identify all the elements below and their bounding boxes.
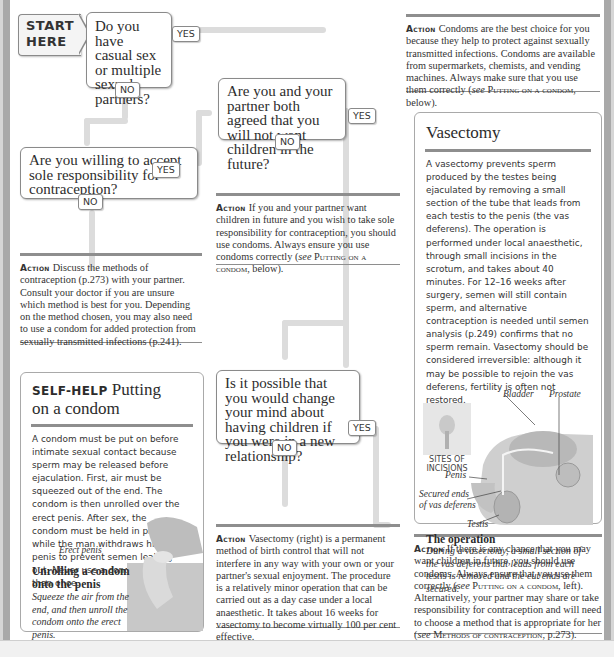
q3-no-tag: NO <box>275 134 300 150</box>
label-prostate: Prostate <box>549 389 581 399</box>
page-footer-strip <box>0 640 614 657</box>
action-use-condoms: ActionCondoms are the best choice for yo… <box>406 14 600 92</box>
label-penis: Penis <box>445 470 466 480</box>
condom-illustration <box>127 513 203 631</box>
start-label: START HERE <box>26 18 74 50</box>
label-bladder: Bladder <box>503 389 534 399</box>
label-erect-penis: Erect penis <box>59 545 102 555</box>
page-edge-left <box>0 0 10 640</box>
page-edge-right <box>604 0 614 640</box>
q2-yes-tag: YES <box>152 162 180 178</box>
q1-yes-tag: YES <box>172 26 200 42</box>
q4-no-tag: NO <box>272 440 297 456</box>
label-secured-ends: Secured ends of vas deferens <box>419 489 477 511</box>
action-sole-condoms: ActionIf you and your partner want child… <box>216 193 400 265</box>
vasectomy-panel: Vasectomy A vasectomy prevents sperm pro… <box>414 112 602 524</box>
q1-no-tag: NO <box>115 82 140 98</box>
q3-yes-tag: YES <box>348 108 376 124</box>
selfhelp-title: SELF-HELP Putting on a condom <box>31 373 193 427</box>
label-testis: Testis <box>467 519 488 529</box>
vasectomy-caption: The operation During a vasectomy, a smal… <box>426 533 594 595</box>
q4-yes-tag: YES <box>348 420 376 436</box>
question-partner-agreed: Are you and your partner both agreed tha… <box>218 78 346 140</box>
action-discuss-methods: ActionDiscuss the methods of contracepti… <box>20 253 202 343</box>
selfhelp-panel: SELF-HELP Putting on a condom A condom m… <box>20 372 204 632</box>
q2-no-tag: NO <box>78 194 103 210</box>
action-vasectomy: ActionVasectomy (right) is a permanent m… <box>216 524 400 628</box>
question-casual-sex: Do you have casual sex or multiple sexua… <box>86 12 172 88</box>
hand-illustration-icon <box>127 513 203 631</box>
question-change-mind: Is it possible that you would change you… <box>216 370 360 444</box>
vasectomy-body: A vasectomy prevents sperm produced by t… <box>415 152 601 407</box>
selfhelp-caption: Unrolling a condom onto the penis Squeez… <box>32 565 132 641</box>
vasectomy-title: Vasectomy <box>425 113 591 152</box>
